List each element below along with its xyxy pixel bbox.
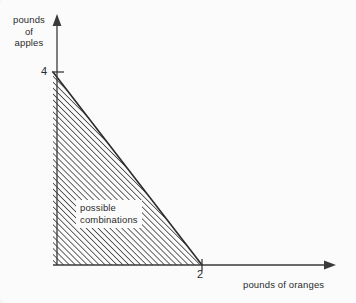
x-axis-arrow-icon [324, 260, 336, 269]
chart-figure: pounds of apples pounds of oranges 4 2 p… [0, 0, 356, 303]
y-axis-tick-label-4: 4 [41, 65, 47, 77]
y-axis-title: pounds of apples [6, 14, 52, 49]
x-axis-title: pounds of oranges [243, 279, 324, 291]
y-axis-arrow-icon [53, 14, 62, 26]
plot-area [0, 0, 356, 303]
x-axis-tick-label-2: 2 [197, 268, 203, 280]
possible-combinations-label: possible combinations [76, 200, 142, 228]
